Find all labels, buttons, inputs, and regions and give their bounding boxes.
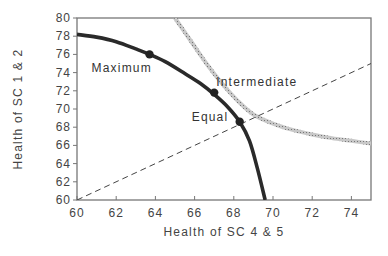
y-tick-label: 74 <box>56 66 71 80</box>
frontier-line <box>77 34 265 200</box>
maximum-annotation: Maximum <box>92 61 152 75</box>
y-tick-label: 76 <box>56 47 71 61</box>
x-tick-label: 68 <box>226 206 241 220</box>
y-tick-label: 78 <box>56 29 71 43</box>
y-tick-label: 80 <box>56 11 71 25</box>
x-tick-label: 62 <box>109 206 124 220</box>
y-tick-label: 66 <box>56 138 71 152</box>
maximum-point <box>145 50 153 58</box>
x-tick-label: 66 <box>187 206 202 220</box>
points-layer: MaximumIntermediateEqual <box>92 50 298 126</box>
y-axis-ticks: 6062646668707274767880 <box>56 11 77 207</box>
y-tick-label: 62 <box>56 175 71 189</box>
x-tick-label: 72 <box>305 206 320 220</box>
x-tick-label: 74 <box>344 206 359 220</box>
y-tick-label: 60 <box>56 193 71 207</box>
x-tick-label: 70 <box>265 206 280 220</box>
x-tick-label: 64 <box>148 206 163 220</box>
x-axis-label: Health of SC 4 & 5 <box>164 225 285 239</box>
x-tick-label: 60 <box>69 206 84 220</box>
y-tick-label: 72 <box>56 84 71 98</box>
y-tick-label: 70 <box>56 102 71 116</box>
intermediate-annotation: Intermediate <box>216 75 297 89</box>
equal-annotation: Equal <box>192 110 229 124</box>
y-tick-label: 64 <box>56 157 71 171</box>
y-axis-label: Health of SC 1 & 2 <box>11 49 25 170</box>
y-tick-label: 68 <box>56 120 71 134</box>
chart: 6062646668707274 6062646668707274767880 … <box>0 0 388 256</box>
intermediate-point <box>210 88 218 96</box>
equal-point <box>235 118 243 126</box>
